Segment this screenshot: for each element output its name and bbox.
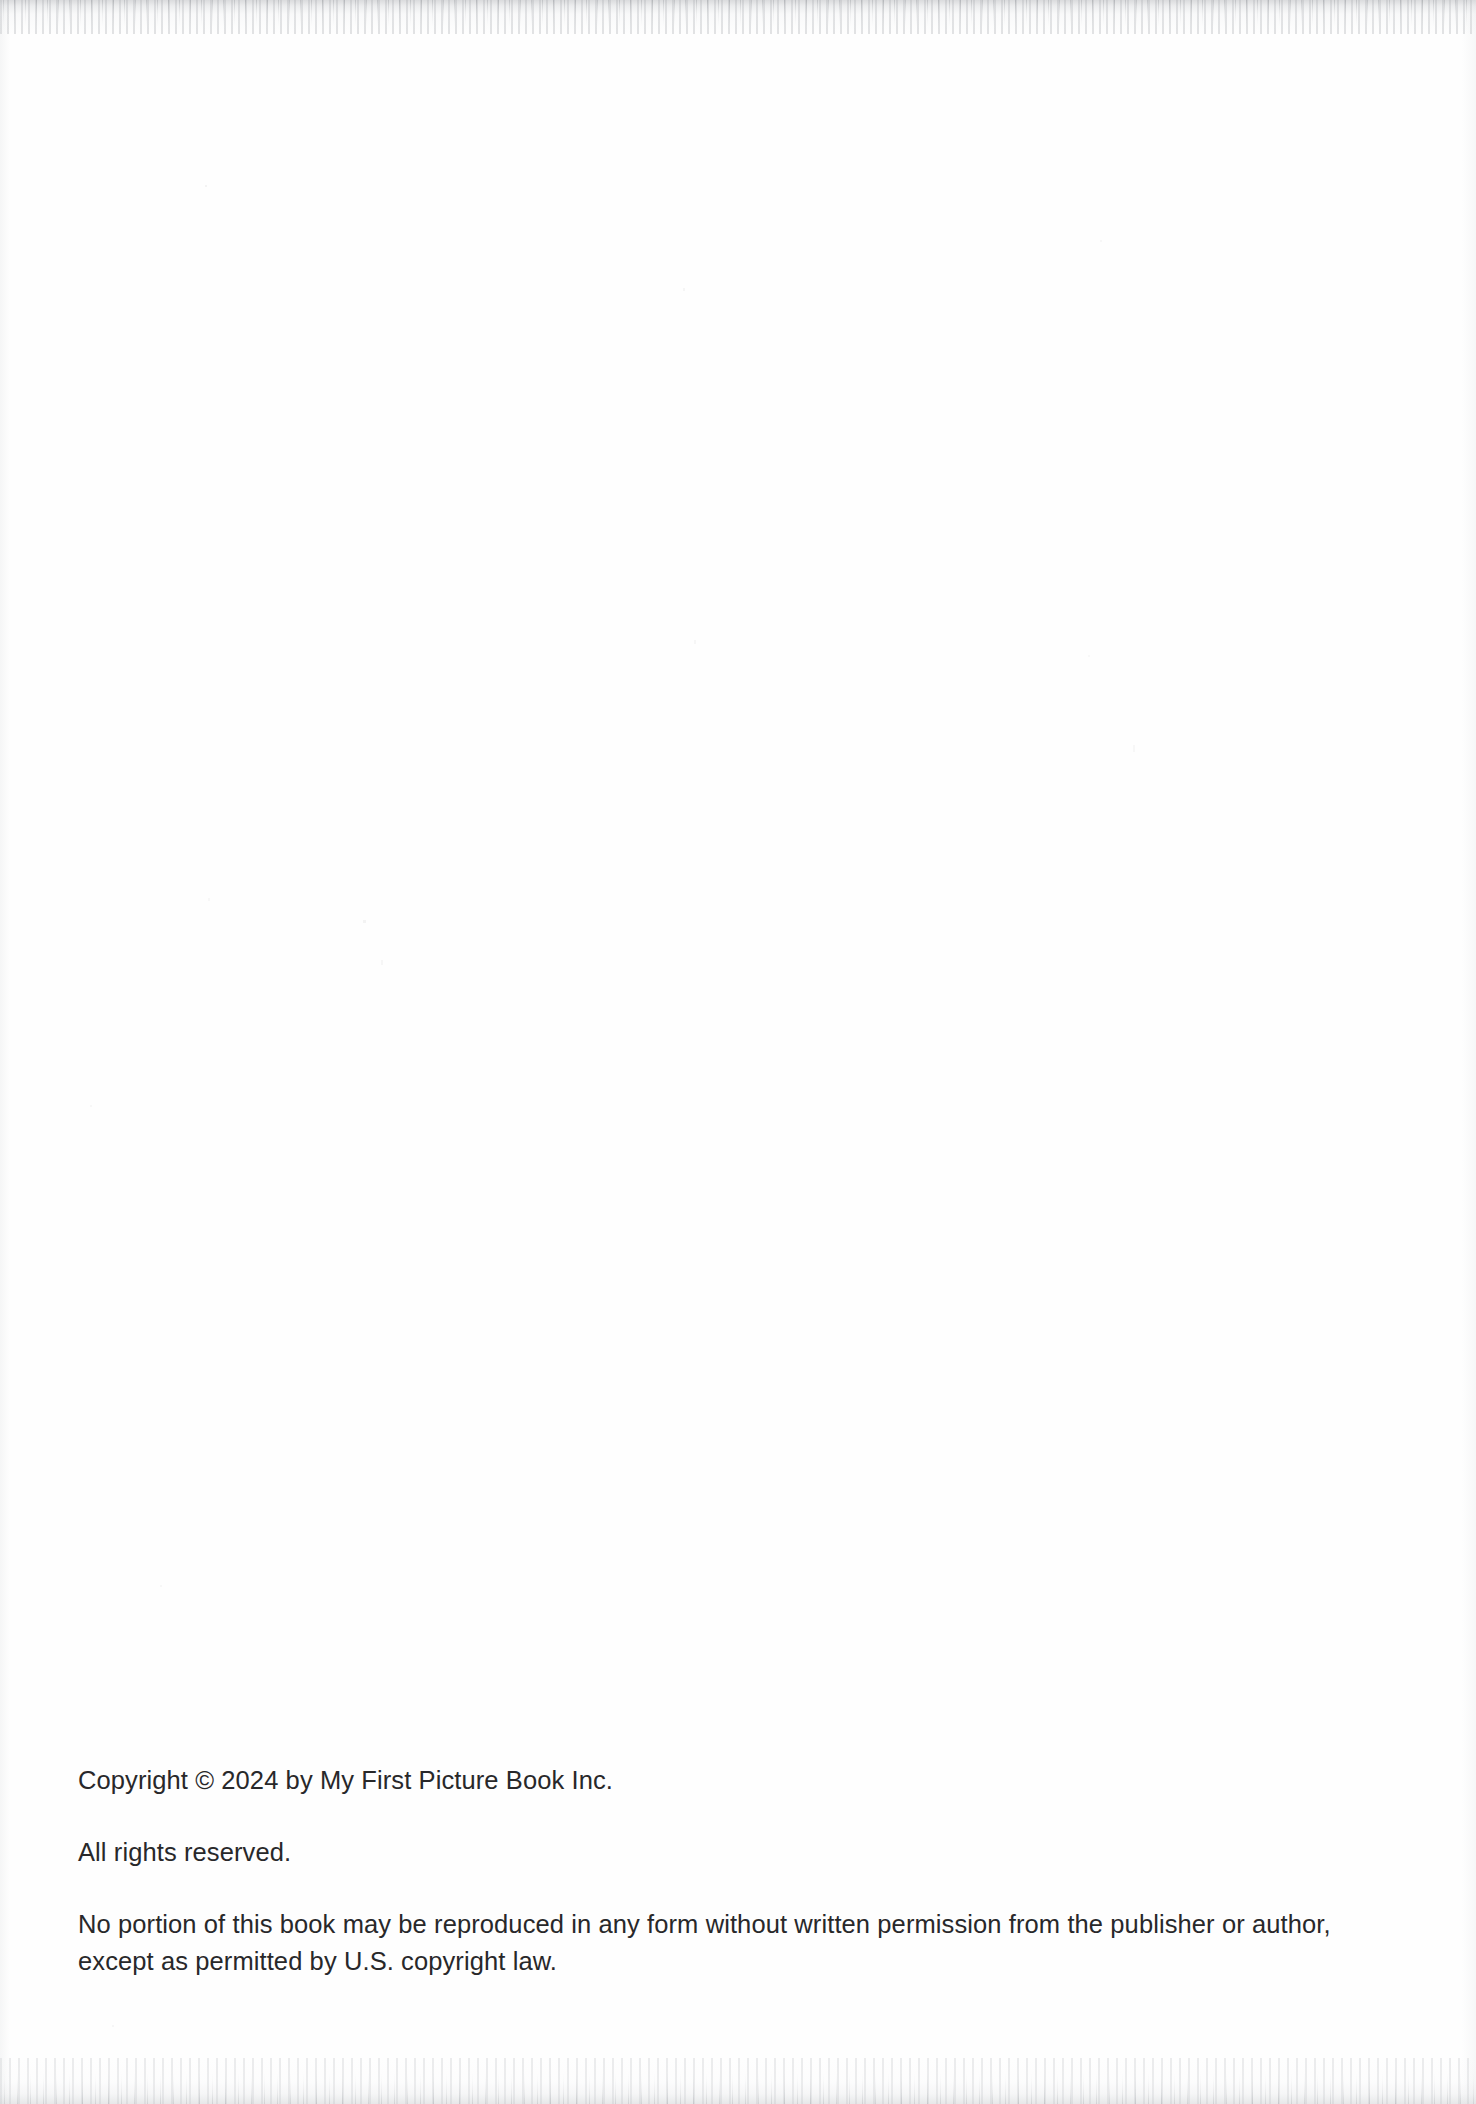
copyright-text-block: Copyright © 2024 by My First Picture Boo… [78, 1762, 1394, 1979]
scan-edge-top [0, 0, 1476, 34]
scan-edge-bottom-texture [0, 2074, 1476, 2104]
dust-speck [363, 920, 366, 923]
rights-reserved-line: All rights reserved. [78, 1834, 1394, 1870]
dust-speck [112, 2025, 114, 2027]
copyright-line: Copyright © 2024 by My First Picture Boo… [78, 1762, 1394, 1798]
reproduction-notice: No portion of this book may be reproduce… [78, 1906, 1394, 1978]
copyright-page: Copyright © 2024 by My First Picture Boo… [0, 0, 1476, 2104]
dust-speck [381, 960, 383, 965]
scan-edge-bottom [0, 2058, 1476, 2104]
scan-edge-top-texture [0, 0, 1476, 26]
dust-speck [694, 640, 696, 644]
dust-speck [208, 898, 210, 901]
dust-speck [683, 288, 685, 291]
dust-speck [160, 1585, 162, 1587]
dust-speck [1133, 745, 1135, 752]
scan-edge-left [0, 0, 10, 2104]
dust-speck [90, 1105, 92, 1107]
dust-speck [1100, 240, 1102, 242]
dust-speck [205, 185, 207, 187]
scan-edge-right [1462, 0, 1476, 2104]
dust-speck [1088, 655, 1090, 657]
